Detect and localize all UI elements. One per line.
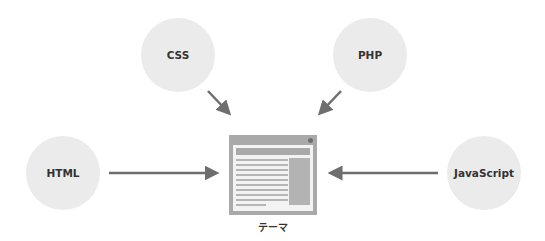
text-line [236, 164, 288, 166]
text-line [236, 199, 288, 201]
text-line [236, 184, 288, 186]
theme-label: テーマ [229, 219, 317, 234]
text-line [236, 204, 266, 206]
text-line [236, 159, 288, 161]
node-html-label: HTML [46, 167, 79, 179]
node-css: CSS [141, 18, 215, 92]
window-header-bar [236, 148, 310, 155]
node-php-label: PHP [358, 49, 382, 61]
text-line [236, 169, 288, 171]
node-php: PHP [333, 18, 407, 92]
node-javascript-label: JavaScript [454, 167, 514, 179]
node-javascript: JavaScript [447, 136, 521, 210]
text-line [236, 189, 288, 191]
window-body [233, 145, 313, 211]
window-sidebar [289, 158, 310, 205]
node-css-label: CSS [167, 49, 190, 61]
node-html: HTML [26, 136, 100, 210]
arrow-php [323, 91, 341, 110]
arrow-css [208, 91, 226, 110]
text-line [236, 179, 288, 181]
text-line [236, 174, 288, 176]
browser-window-icon [229, 135, 317, 215]
text-line [236, 194, 288, 196]
window-dot-icon [308, 138, 313, 143]
